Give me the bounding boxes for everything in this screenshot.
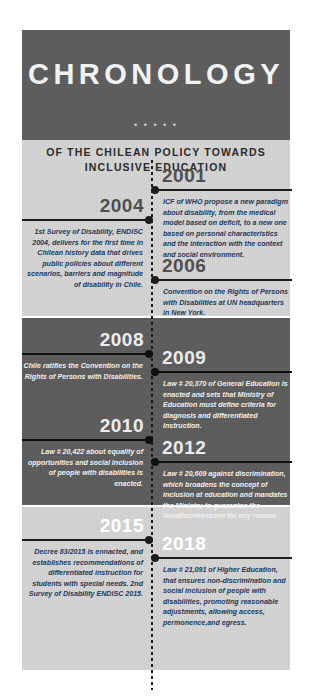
- timeline-event-2008: 2008 Chile ratifies the Convention on th…: [22, 330, 152, 382]
- event-year: 2001: [152, 166, 292, 185]
- event-node-marker: [151, 458, 159, 466]
- event-year: 2010: [22, 416, 152, 435]
- event-description: 1st Survey of Disability, ENDISC 2004, d…: [22, 227, 152, 291]
- event-rule-bar: [22, 439, 146, 441]
- event-rule: [22, 219, 152, 221]
- event-rule-bar: [158, 371, 292, 373]
- event-description: Convention on the Rights of Persons with…: [152, 287, 292, 319]
- timeline-event-2018: 2018 Law # 21,091 of Higher Education, t…: [152, 534, 292, 629]
- event-rule: [22, 439, 152, 441]
- event-rule-bar: [22, 219, 146, 221]
- subtitle-line-1: OF THE CHILEAN POLICY TOWARDS: [22, 145, 290, 160]
- timeline-event-2015: 2015 Decree 83/2015 is ennacted, and est…: [22, 516, 152, 600]
- title-dots-ornament: • • • • •: [22, 121, 290, 130]
- event-rule: [152, 189, 292, 191]
- timeline-event-2012: 2012 Law # 20,609 against discrimination…: [152, 438, 292, 522]
- event-description: Chile ratifies the Convention on the Rig…: [22, 361, 152, 382]
- event-node-marker: [151, 554, 159, 562]
- event-node-marker: [145, 216, 153, 224]
- timeline-event-2010: 2010 Law # 20,422 about equality of oppo…: [22, 416, 152, 489]
- event-rule-bar: [158, 189, 292, 191]
- timeline-event-2006: 2006 Convention on the Rights of Persons…: [152, 256, 292, 319]
- page-title: CHRONOLOGY: [22, 60, 290, 89]
- event-rule-bar: [158, 461, 292, 463]
- event-description: Law # 20,609 against discrimination, whi…: [152, 469, 292, 522]
- event-description: Law # 20,422 about equality of opportuni…: [22, 447, 152, 489]
- event-description: Decree 83/2015 is ennacted, and establis…: [22, 547, 152, 600]
- timeline-event-2009: 2009 Law # 20,370 of General Education i…: [152, 348, 292, 432]
- event-node-marker: [151, 186, 159, 194]
- event-year: 2015: [22, 516, 152, 535]
- event-year: 2008: [22, 330, 152, 349]
- event-rule: [22, 539, 152, 541]
- event-rule: [22, 353, 152, 355]
- event-year: 2006: [152, 256, 292, 275]
- timeline-event-2001: 2001 ICF of WHO propose a new paradigm a…: [152, 166, 292, 261]
- chronology-infographic: CHRONOLOGY • • • • • OF THE CHILEAN POLI…: [0, 0, 312, 697]
- event-year: 2004: [22, 196, 152, 215]
- event-rule: [152, 279, 292, 281]
- event-year: 2018: [152, 534, 292, 553]
- event-node-marker: [151, 276, 159, 284]
- event-node-marker: [151, 368, 159, 376]
- event-description: Law # 21,091 of Higher Education, that e…: [152, 565, 292, 629]
- event-rule: [152, 461, 292, 463]
- event-rule-bar: [158, 557, 292, 559]
- event-year: 2012: [152, 438, 292, 457]
- event-rule-bar: [22, 539, 146, 541]
- timeline-event-2004: 2004 1st Survey of Disability, ENDISC 20…: [22, 196, 152, 291]
- event-description: ICF of WHO propose a new paradigm about …: [152, 197, 292, 261]
- event-rule-bar: [22, 353, 146, 355]
- event-rule: [152, 371, 292, 373]
- event-rule: [152, 557, 292, 559]
- event-description: Law # 20,370 of General Education is ena…: [152, 379, 292, 432]
- event-rule-bar: [158, 279, 292, 281]
- event-year: 2009: [152, 348, 292, 367]
